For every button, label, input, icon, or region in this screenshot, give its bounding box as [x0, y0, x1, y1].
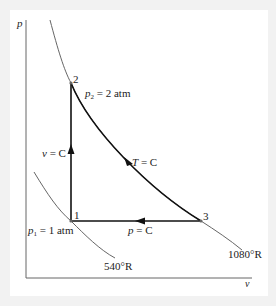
- p1-annotation: p1 = 1 atm: [27, 224, 74, 238]
- pv-diagram: p v 2 1 3 p2 = 2 atm v = C T = C p1 = 1 …: [0, 0, 276, 306]
- state-point-1: [69, 219, 72, 222]
- process-2-3-label: T = C: [132, 156, 157, 168]
- point-label-3: 3: [203, 210, 209, 222]
- point-label-2: 2: [73, 73, 79, 85]
- process-3-1-label: p = C: [127, 224, 153, 236]
- isotherm-540R-label: 540°R: [104, 260, 133, 272]
- isotherm-1080R-label: 1080°R: [228, 248, 262, 260]
- p-axis-label: p: [16, 17, 23, 29]
- arrow-1-2-icon: [68, 144, 75, 154]
- process-2-3-isothermal: [71, 83, 201, 221]
- v-axis-label: v: [245, 278, 250, 289]
- process-1-2-label: v = C: [42, 147, 66, 159]
- p2-annotation: p2 = 2 atm: [84, 87, 131, 101]
- point-label-1: 1: [74, 209, 80, 221]
